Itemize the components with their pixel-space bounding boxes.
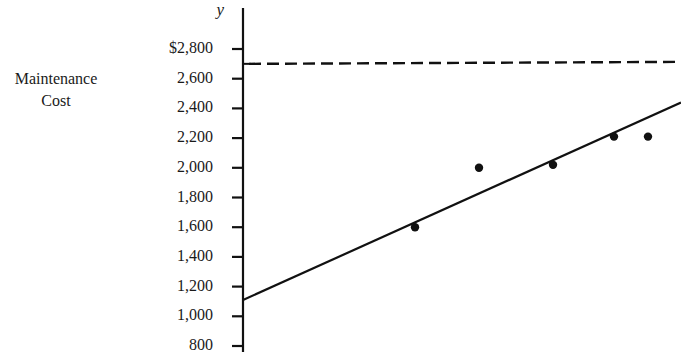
data-point [549, 161, 557, 169]
data-point [610, 132, 618, 140]
chart-plot-area [0, 0, 681, 352]
data-point [411, 223, 419, 231]
data-point [644, 132, 652, 140]
data-point [475, 164, 483, 172]
regression-line [243, 102, 681, 300]
y-axis [232, 8, 243, 352]
reference-line [243, 62, 681, 64]
data-points [411, 132, 652, 231]
